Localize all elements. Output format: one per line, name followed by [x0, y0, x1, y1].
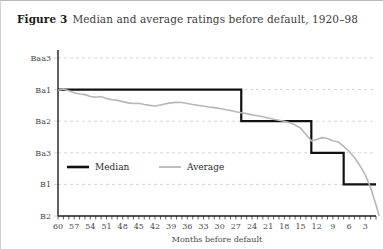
x-axis-tick-label: 45	[134, 222, 144, 231]
x-axis-tick-label: 39	[166, 222, 176, 231]
x-axis-tick-label: 27	[231, 222, 241, 231]
x-axis-tick-label: 36	[182, 222, 192, 231]
y-axis-tick-label: Ba1	[35, 86, 51, 95]
x-axis-tick-labels: 6057545148454239363330272421181512963	[53, 222, 368, 231]
x-axis-tick-label: 15	[295, 222, 305, 231]
y-axis-tick-label: Ba3	[35, 149, 51, 158]
x-axis-tick-label: 30	[215, 222, 225, 231]
figure-container: Figure 3Median and average ratings befor…	[0, 0, 383, 249]
x-axis-title: Months before default	[172, 235, 263, 244]
chart-legend: MedianAverage	[67, 162, 224, 172]
x-axis-tick-label: 60	[53, 222, 63, 231]
x-axis-tick-label: 21	[263, 222, 273, 231]
x-axis-tick-label: 18	[279, 222, 289, 231]
y-axis-tick-label: Baa3	[30, 54, 51, 63]
x-axis-tick-label: 51	[101, 222, 111, 231]
ratings-line-chart: Baa3Ba1Ba2Ba3B1B260575451484542393633302…	[1, 1, 383, 249]
legend-label: Median	[95, 162, 130, 172]
x-axis-tick-label: 9	[330, 222, 335, 231]
x-axis-tick-label: 48	[118, 222, 128, 231]
x-axis-tick-label: 42	[150, 222, 160, 231]
y-axis-tick-label: Ba2	[35, 117, 51, 126]
x-axis-tick-label: 57	[69, 222, 79, 231]
x-axis-tick-label: 12	[312, 222, 322, 231]
y-axis-tick-label: B1	[40, 180, 51, 189]
x-axis-tick-label: 54	[85, 222, 95, 231]
y-axis-tick-label: B2	[40, 212, 51, 221]
y-axis-tick-labels: Baa3Ba1Ba2Ba3B1B2	[30, 54, 58, 221]
x-axis-tick-label: 6	[347, 222, 352, 231]
x-axis-tick-label: 3	[363, 222, 368, 231]
x-axis-tick-label: 24	[247, 222, 257, 231]
legend-label: Average	[186, 162, 224, 172]
chart-plot-area: Baa3Ba1Ba2Ba3B1B260575451484542393633302…	[1, 1, 383, 249]
x-axis-tick-label: 33	[198, 222, 208, 231]
